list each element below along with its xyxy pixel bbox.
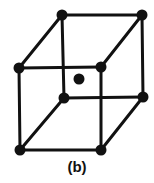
figure-caption: (b) — [0, 158, 154, 176]
cell-edge-front-top-left-to-front-top-right — [19, 67, 101, 68]
cell-edge-back-top-left-to-front-top-left — [19, 15, 62, 68]
cell-edge-back-top-right-to-back-bottom-right — [142, 15, 143, 97]
lattice-atom-body-center — [74, 74, 85, 85]
cell-edge-back-bottom-left-to-front-bottom-left — [20, 98, 64, 150]
lattice-atom-back-bottom-right — [138, 92, 149, 103]
lattice-atom-front-bottom-right — [96, 145, 107, 156]
cell-edge-back-bottom-left-to-back-bottom-right — [64, 97, 143, 98]
cell-edge-back-top-left-to-back-bottom-left — [62, 15, 64, 98]
lattice-diagram — [0, 0, 154, 183]
lattice-atom-back-bottom-left — [59, 93, 70, 104]
cell-edge-back-top-right-to-front-top-right — [101, 15, 142, 67]
cell-edge-front-top-left-to-front-bottom-left — [19, 68, 20, 150]
lattice-atom-back-top-left — [57, 10, 68, 21]
lattice-atom-front-top-right — [96, 62, 107, 73]
cell-edge-back-bottom-right-to-front-bottom-right — [101, 97, 143, 150]
bcc-unit-cell-figure: (b) — [0, 0, 154, 183]
lattice-atom-back-top-right — [137, 10, 148, 21]
lattice-atom-front-top-left — [14, 63, 25, 74]
lattice-atom-front-bottom-left — [15, 145, 26, 156]
